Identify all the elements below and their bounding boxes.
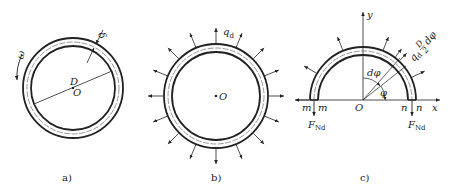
- load-label: qd: [223, 26, 234, 40]
- thickness-label: δ: [96, 31, 108, 40]
- dphi-label: dφ: [367, 67, 380, 78]
- caption-b: b): [211, 172, 221, 183]
- center-label: O: [73, 87, 81, 98]
- force-right-label: FNd: [407, 119, 426, 132]
- n-right-label: n: [416, 102, 422, 113]
- panel-c: y x O dφ φ m m n n FNd FNd qd D 2 dφ c): [295, 9, 441, 183]
- n-left-label: n: [401, 102, 407, 113]
- element-load-label: qd D 2 dφ: [405, 27, 442, 66]
- panel-a: ω δ D O a): [14, 30, 123, 183]
- m-left-label: m: [302, 102, 311, 113]
- force-left-label: FNd: [307, 119, 326, 132]
- diagram-canvas: ω δ D O a) O qd b) y x O dφ φ m: [0, 0, 452, 193]
- caption-c: c): [360, 172, 370, 183]
- y-axis-label: y: [366, 9, 373, 20]
- origin-label: O: [355, 102, 363, 113]
- m-right-label: m: [318, 102, 327, 113]
- panel-b: O qd b): [148, 26, 284, 183]
- caption-a: a): [62, 172, 72, 183]
- phi-label: φ: [380, 87, 387, 98]
- omega-label: ω: [14, 50, 26, 60]
- center-label-b: O: [219, 91, 227, 102]
- x-axis-label: x: [432, 102, 438, 113]
- diameter-label: D: [69, 76, 78, 87]
